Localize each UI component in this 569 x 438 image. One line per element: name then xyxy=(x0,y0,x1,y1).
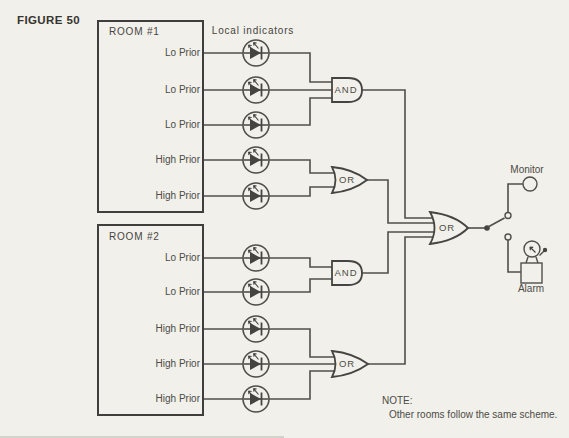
led-indicator xyxy=(243,279,269,305)
output-switch: Monitor Alarm xyxy=(484,164,547,294)
monitor-label: Monitor xyxy=(510,164,544,175)
led-indicator xyxy=(243,351,269,377)
led-indicator xyxy=(243,316,269,342)
master-or-gate-label: OR xyxy=(439,222,455,233)
signal-label: Lo Prior xyxy=(165,47,201,58)
signal-label: High Prior xyxy=(156,154,201,165)
alarm-label: Alarm xyxy=(518,283,544,294)
monitor-contact xyxy=(505,213,511,219)
alarm-clapper-arrow xyxy=(530,247,536,253)
led-indicator xyxy=(243,147,269,173)
monitor-symbol xyxy=(523,177,537,191)
figure-page: AND OR AND OR OR ROOM #1 ROOM #2 Lo Prio… xyxy=(0,0,569,438)
led-indicator xyxy=(243,386,269,412)
local-indicators xyxy=(243,40,269,412)
signal-label: Lo Prior xyxy=(165,286,201,297)
wire-room2-high3 xyxy=(203,371,339,399)
signal-label: Lo Prior xyxy=(165,119,201,130)
alarm-bell-symbol xyxy=(521,241,547,283)
signal-label: High Prior xyxy=(156,393,201,404)
signal-label: Lo Prior xyxy=(165,252,201,263)
signal-label: Lo Prior xyxy=(165,84,201,95)
or-gate-room1-label: OR xyxy=(339,174,355,185)
wire-room1-high1 xyxy=(203,160,339,173)
alarm-base-box xyxy=(521,263,542,283)
signal-label: High Prior xyxy=(156,358,201,369)
led-indicator xyxy=(243,112,269,138)
signal-label: High Prior xyxy=(156,323,201,334)
led-indicator xyxy=(243,245,269,271)
room1-title: ROOM #1 xyxy=(109,26,160,37)
local-indicators-label: Local indicators xyxy=(212,25,294,36)
logic-diagram: AND OR AND OR OR ROOM #1 ROOM #2 Lo Prio… xyxy=(0,0,569,438)
wire-and2-to-master xyxy=(361,232,437,273)
or-gate-room2-label: OR xyxy=(339,358,355,369)
alarm-neck xyxy=(526,257,538,263)
alarm-contact xyxy=(505,234,511,240)
wire-to-alarm xyxy=(508,240,521,272)
signal-label: High Prior xyxy=(156,190,201,201)
note-body: Other rooms follow the same scheme. xyxy=(389,409,557,420)
and-gate-room1-label: AND xyxy=(334,84,357,95)
wire-room1-lo3 xyxy=(203,98,336,125)
room2-title: ROOM #2 xyxy=(109,231,160,242)
room-boxes: ROOM #1 ROOM #2 xyxy=(98,21,203,415)
switch-arm xyxy=(488,218,505,227)
gates: AND OR AND OR OR xyxy=(332,78,468,377)
wire-room1-high2 xyxy=(203,187,339,196)
led-indicator xyxy=(243,77,269,103)
alarm-striker-dot xyxy=(543,248,547,252)
note-heading: NOTE: xyxy=(382,395,413,406)
and-gate-room2-label: AND xyxy=(334,267,357,278)
wire-to-monitor xyxy=(508,184,523,213)
wire-and1-to-master xyxy=(361,90,438,218)
led-indicator xyxy=(243,40,269,66)
wire-room2-high1 xyxy=(203,329,339,357)
wire-room1-lo1 xyxy=(203,53,336,82)
figure-label: FIGURE 50 xyxy=(17,14,80,26)
wire-or1-to-master xyxy=(366,180,437,223)
led-indicator xyxy=(243,183,269,209)
wire-or2-to-master xyxy=(366,237,438,364)
